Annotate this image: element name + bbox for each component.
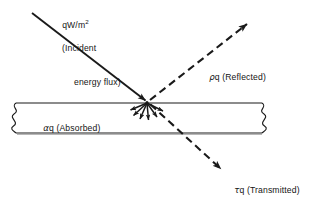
radiation-energy-balance-diagram: qW/m2 (Incident energy flux) ρq (Reflect…	[0, 0, 326, 198]
transmitted-label: τq (Transmitted)	[224, 173, 300, 198]
incident-symbol: qW/m	[62, 20, 85, 30]
reflected-text: q (Reflected)	[215, 72, 266, 82]
impact-point	[146, 101, 149, 104]
incident-exponent: 2	[85, 18, 89, 25]
reflected-label: ρq (Reflected)	[199, 60, 266, 95]
transmitted-text: q (Transmitted)	[239, 185, 299, 195]
incident-flux-label: qW/m2 (Incident energy flux)	[52, 8, 121, 112]
incident-line-2: (Incident	[62, 43, 121, 55]
diagram-canvas	[0, 0, 326, 198]
transmitted-ray-line	[151, 105, 222, 170]
absorbed-burst	[131, 103, 164, 120]
slab-right-break-squiggle	[262, 103, 267, 133]
transmitted-ray	[151, 105, 222, 170]
absorbed-text: q (Absorbed)	[49, 123, 100, 133]
incident-line-3: energy flux)	[74, 77, 121, 89]
absorbed-label: αq (Absorbed)	[33, 111, 100, 146]
slab-left-break-squiggle	[12, 103, 17, 133]
